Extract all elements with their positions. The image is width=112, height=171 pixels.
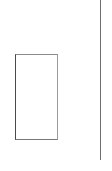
placeholder-box[interactable] bbox=[15, 54, 58, 140]
right-margin-region bbox=[101, 0, 112, 171]
empty-region-above-box bbox=[0, 0, 100, 54]
empty-region-below-box bbox=[0, 140, 100, 171]
page-canvas bbox=[0, 0, 112, 171]
placeholder-box-content bbox=[16, 55, 57, 139]
